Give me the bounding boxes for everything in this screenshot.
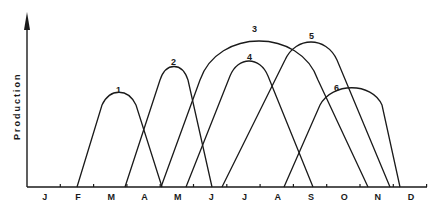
curve-4 — [186, 61, 313, 187]
curve-label-2: 2 — [171, 57, 176, 67]
x-axis-month-labels: JFMAMJJASOND — [42, 192, 415, 202]
curve-label-4: 4 — [247, 52, 252, 62]
month-label: O — [341, 192, 348, 202]
month-label: D — [408, 192, 415, 202]
month-label: J — [209, 192, 214, 202]
y-axis-arrow-icon — [24, 12, 30, 30]
month-label: A — [275, 192, 282, 202]
curve-6 — [284, 88, 400, 187]
curve-label-5: 5 — [309, 31, 314, 41]
month-label: J — [42, 192, 47, 202]
month-label: S — [308, 192, 314, 202]
month-label: N — [374, 192, 381, 202]
month-label: A — [141, 192, 148, 202]
curve-1 — [77, 92, 162, 187]
production-chart: JFMAMJJASOND Production 1 2 3 4 5 6 — [0, 0, 439, 208]
curve-label-3: 3 — [252, 24, 257, 34]
curve-5 — [222, 42, 390, 187]
curve-label-1: 1 — [116, 85, 121, 95]
month-label: M — [174, 192, 182, 202]
month-label: J — [242, 192, 247, 202]
curve-3 — [161, 41, 368, 187]
production-curves — [77, 41, 400, 187]
month-label: M — [108, 192, 116, 202]
curve-label-6: 6 — [334, 83, 339, 93]
month-label: F — [75, 192, 81, 202]
y-axis-label: Production — [12, 73, 22, 141]
